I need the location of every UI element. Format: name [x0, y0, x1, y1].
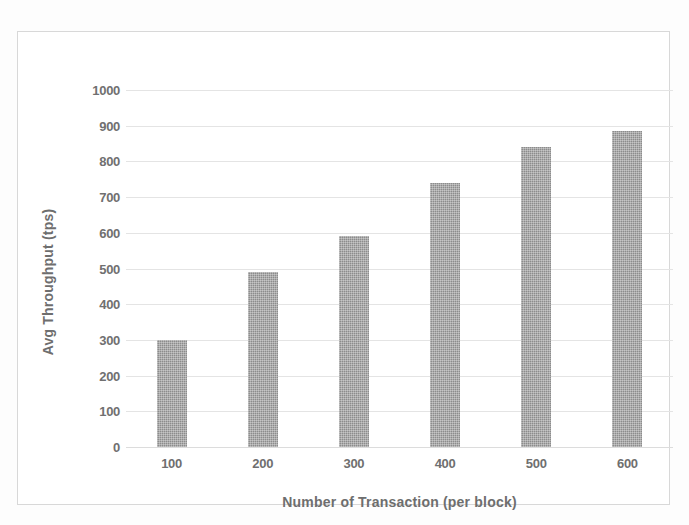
- x-axis-title: Number of Transaction (per block): [126, 494, 673, 510]
- bar: [430, 183, 460, 447]
- gridline: [126, 126, 673, 127]
- plot-area: [126, 90, 673, 447]
- gridline: [126, 269, 673, 270]
- bar: [339, 236, 369, 447]
- gridline: [126, 447, 673, 448]
- x-axis-tick-labels: 100200300400500600: [126, 457, 673, 481]
- x-axis-tick-label: 300: [324, 457, 384, 470]
- bar: [521, 147, 551, 447]
- bar: [248, 272, 278, 447]
- gridline: [126, 90, 673, 91]
- y-axis-tick-label: 800: [62, 155, 120, 168]
- bar: [157, 340, 187, 447]
- y-axis-tick-label: 200: [62, 369, 120, 382]
- y-axis-tick-label: 900: [62, 119, 120, 132]
- gridline: [126, 161, 673, 162]
- x-axis-tick-label: 100: [142, 457, 202, 470]
- y-axis-tick-label: 100: [62, 405, 120, 418]
- gridline: [126, 304, 673, 305]
- y-axis-tick-label: 700: [62, 191, 120, 204]
- x-axis-tick-label: 400: [415, 457, 475, 470]
- gridline: [126, 197, 673, 198]
- y-axis-title: Avg Throughput (tps): [40, 152, 56, 412]
- x-axis-tick-label: 500: [506, 457, 566, 470]
- gridline: [126, 233, 673, 234]
- figure-frame: Avg Throughput (tps) 1000900800700600500…: [17, 31, 670, 505]
- gridline: [126, 340, 673, 341]
- gridline: [126, 376, 673, 377]
- y-axis-tick-label: 300: [62, 333, 120, 346]
- y-axis-tick-label: 500: [62, 262, 120, 275]
- y-axis-tick-labels: 10009008007006005004003002001000: [56, 90, 120, 447]
- gridline: [126, 411, 673, 412]
- x-axis-tick-label: 200: [233, 457, 293, 470]
- y-axis-tick-label: 400: [62, 298, 120, 311]
- y-axis-tick-label: 600: [62, 226, 120, 239]
- y-axis-tick-label: 0: [62, 441, 120, 454]
- y-axis-tick-label: 1000: [62, 84, 120, 97]
- bar: [612, 131, 642, 447]
- x-axis-tick-label: 600: [597, 457, 657, 470]
